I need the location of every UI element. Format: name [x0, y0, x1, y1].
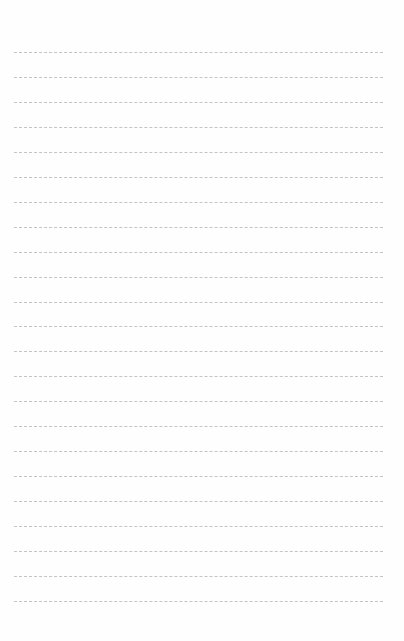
ruled-line [14, 476, 383, 477]
ruled-line [14, 127, 383, 128]
ruled-line [14, 52, 383, 53]
ruled-line [14, 501, 383, 502]
ruled-line [14, 551, 383, 552]
ruled-line [14, 401, 383, 402]
ruled-line [14, 526, 383, 527]
ruled-line [14, 601, 383, 602]
ruled-line [14, 576, 383, 577]
ruled-line [14, 451, 383, 452]
ruled-line [14, 177, 383, 178]
ruled-line [14, 376, 383, 377]
ruled-line [14, 102, 383, 103]
ruled-line [14, 252, 383, 253]
ruled-line [14, 202, 383, 203]
ruled-line [14, 277, 383, 278]
lined-paper-page [0, 0, 404, 641]
ruled-line [14, 326, 383, 327]
ruled-line [14, 351, 383, 352]
ruled-line [14, 77, 383, 78]
ruled-line [14, 302, 383, 303]
ruled-line [14, 152, 383, 153]
ruled-line [14, 426, 383, 427]
ruled-line [14, 227, 383, 228]
